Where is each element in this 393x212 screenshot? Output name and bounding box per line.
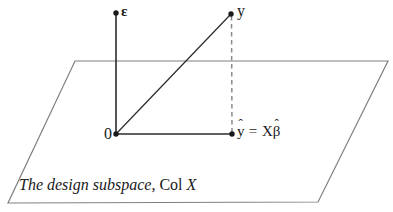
betahat-symbol: ˆβ bbox=[273, 124, 281, 139]
y-vector-label: y bbox=[237, 3, 245, 19]
design-matrix-symbol: X bbox=[262, 123, 273, 139]
epsilon-tip-dot bbox=[113, 10, 118, 15]
design-subspace-caption: The design subspace, Col X bbox=[19, 177, 196, 193]
yhat-symbol: ˆy bbox=[237, 124, 245, 139]
residual-dashed-line bbox=[232, 16, 233, 132]
epsilon-axis-label: ε bbox=[121, 4, 127, 19]
regression-geometry-figure: ε y 0 ˆy = Xˆβ The design subspace, Col … bbox=[0, 0, 393, 212]
origin-point-dot bbox=[113, 131, 118, 136]
yhat-equation-label: ˆy = Xˆβ bbox=[237, 124, 280, 139]
y-hat-mark: ˆ bbox=[239, 117, 243, 130]
y-point-dot bbox=[228, 11, 233, 16]
caption-x-variable: X bbox=[187, 176, 197, 193]
yhat-point-dot bbox=[229, 131, 234, 136]
origin-label: 0 bbox=[104, 126, 112, 142]
equals-sign: = bbox=[245, 123, 262, 139]
beta-hat-mark: ˆ bbox=[274, 117, 278, 130]
caption-col-word: Col bbox=[159, 176, 182, 193]
y-vector-line bbox=[116, 14, 231, 134]
caption-italic-part: The design subspace, bbox=[19, 176, 155, 193]
